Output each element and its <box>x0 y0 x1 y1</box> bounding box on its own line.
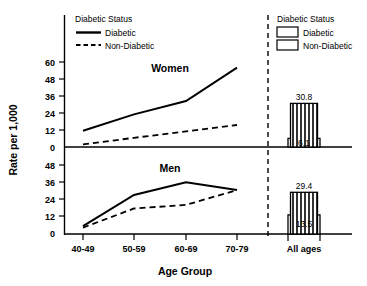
men-diabetic-bar-value: 29.4 <box>296 181 313 191</box>
y-tick-women-48: 48 <box>45 75 55 85</box>
x-tick-70-79: 70-79 <box>225 244 248 254</box>
legend-nondiabetic-label: Non-Diabetic <box>105 41 155 51</box>
legend-bar-diabetic-label: Diabetic <box>303 28 334 38</box>
panel-title-men: Men <box>160 162 181 174</box>
legend-diabetic-label: Diabetic <box>105 28 136 38</box>
men-nondiabetic-bar-value: 13.5 <box>296 219 313 229</box>
x-axis-title: Age Group <box>158 265 212 277</box>
x-tick-60-69: 60-69 <box>174 244 197 254</box>
y-tick-women-0: 0 <box>50 143 55 153</box>
women-diabetic-bar-value: 30.8 <box>296 92 313 102</box>
y-tick-women-12: 12 <box>45 126 55 136</box>
y-tick-men-48: 48 <box>45 161 55 171</box>
legend-bars: Diabetic Status Diabetic Non-Diabetic <box>277 14 353 51</box>
panel-title-women: Women <box>151 62 189 74</box>
y-ticks-men: 48 36 24 12 0 <box>45 161 65 239</box>
legend-bar-nondiabetic-label: Non-Diabetic <box>303 41 353 51</box>
y-tick-men-12: 12 <box>45 212 55 222</box>
x-tick-50-59: 50-59 <box>122 244 145 254</box>
y-tick-men-24: 24 <box>45 195 55 205</box>
y-tick-men-36: 36 <box>45 178 55 188</box>
y-ticks-women: 60 48 36 24 12 0 <box>45 58 65 153</box>
legend-lines: Diabetic Status Diabetic Non-Diabetic <box>75 14 155 51</box>
x-tick-40-49: 40-49 <box>71 244 94 254</box>
legend-bar-nondiabetic-swatch <box>277 40 298 50</box>
women-all-ages-bar: 30.8 6.1 <box>288 92 320 148</box>
men-all-ages-bar: 29.4 13.5 <box>288 181 320 234</box>
men-nondiabetic-line <box>83 190 237 228</box>
legend-bars-title: Diabetic Status <box>277 14 334 24</box>
x-axis <box>65 234 353 241</box>
legend-bar-diabetic-swatch <box>277 27 298 37</box>
chart-figure: Rate per 1,000 60 48 36 24 12 0 48 36 <box>0 0 367 286</box>
y-tick-women-60: 60 <box>45 58 55 68</box>
y-tick-women-24: 24 <box>45 109 55 119</box>
women-diabetic-line <box>83 68 237 131</box>
chart-canvas: Rate per 1,000 60 48 36 24 12 0 48 36 <box>0 0 367 286</box>
legend-lines-title: Diabetic Status <box>75 14 132 24</box>
women-nondiabetic-bar-value: 6.1 <box>298 138 310 148</box>
y-axis-title: Rate per 1,000 <box>7 104 19 175</box>
women-nondiabetic-line <box>83 125 237 144</box>
x-tick-labels: 40-49 50-59 60-69 70-79 All ages <box>71 244 321 254</box>
y-tick-men-0: 0 <box>50 229 55 239</box>
y-tick-women-36: 36 <box>45 92 55 102</box>
x-tick-all-ages: All ages <box>287 244 322 254</box>
